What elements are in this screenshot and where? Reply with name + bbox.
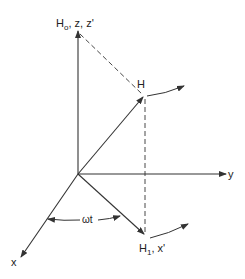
h1-vector-label: H1, x' [139, 242, 165, 257]
h1-vector [78, 174, 144, 234]
h-vector [78, 97, 143, 174]
rotation-arrow-h [147, 86, 184, 96]
x-axis [21, 174, 78, 257]
x-axis-label: x [11, 256, 17, 268]
z-axis-label: Ho, z, z' [56, 17, 94, 32]
diagram-canvas: Ho, z, z' H y x H1, x' ωt [0, 0, 245, 279]
y-axis-label: y [228, 168, 234, 180]
angle-arrow-left [48, 219, 80, 220]
h-vector-label: H [137, 78, 145, 90]
dashed-projection-z [80, 34, 143, 95]
angle-label: ωt [82, 214, 93, 225]
angle-arrow-right [98, 216, 120, 220]
rotation-arrow-h1 [150, 224, 188, 238]
